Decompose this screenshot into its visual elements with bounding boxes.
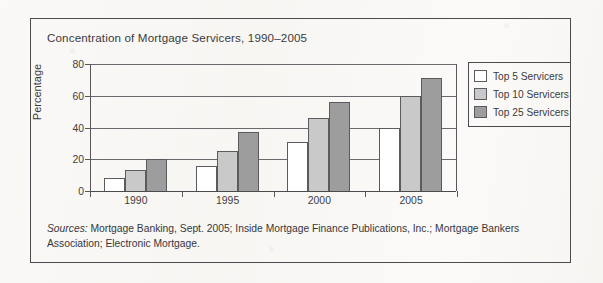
legend-label-0: Top 5 Servicers — [493, 71, 563, 82]
legend-label-2: Top 25 Servicers — [493, 107, 569, 118]
x-tick-mark-4 — [457, 191, 458, 197]
legend-label-1: Top 10 Servicers — [493, 89, 569, 100]
y-tick-mark-80 — [85, 64, 90, 65]
bar-1995-top-10-servicers — [217, 151, 238, 191]
y-tick-mark-40 — [85, 128, 90, 129]
source-text: Mortgage Banking, Sept. 2005; Inside Mor… — [47, 223, 519, 249]
y-axis-title: Percentage — [31, 37, 43, 147]
y-tick-mark-60 — [85, 96, 90, 97]
x-tick-label-1995: 1995 — [198, 195, 258, 206]
source-label: Sources: — [47, 223, 88, 234]
y-tick-label-20: 20 — [50, 154, 84, 165]
bar-2005-top-25-servicers — [421, 78, 442, 191]
bar-2005-top-5-servicers — [379, 128, 400, 192]
plot-area — [90, 64, 457, 191]
bar-2000-top-10-servicers — [308, 118, 329, 191]
legend-swatch-top10 — [474, 88, 487, 100]
bar-1995-top-25-servicers — [238, 132, 259, 191]
x-tick-mark-1 — [182, 191, 183, 197]
bar-2005-top-10-servicers — [400, 96, 421, 191]
y-tick-mark-20 — [85, 159, 90, 160]
legend-item-0[interactable]: Top 5 Servicers — [474, 68, 566, 84]
y-axis-tick-labels: 020406080 — [48, 64, 84, 191]
y-tick-label-60: 60 — [50, 90, 84, 101]
bar-group-1995 — [196, 64, 259, 191]
legend-swatch-top5 — [474, 70, 487, 82]
x-tick-label-2000: 2000 — [289, 195, 349, 206]
bar-1995-top-5-servicers — [196, 166, 217, 191]
y-tick-label-80: 80 — [50, 59, 84, 70]
bar-1990-top-25-servicers — [146, 159, 167, 191]
bar-2000-top-5-servicers — [287, 142, 308, 191]
x-tick-label-2005: 2005 — [381, 195, 441, 206]
bar-1990-top-5-servicers — [104, 178, 125, 191]
bar-group-2000 — [287, 64, 350, 191]
legend-item-1[interactable]: Top 10 Servicers — [474, 86, 566, 102]
bar-2000-top-25-servicers — [329, 102, 350, 191]
bar-group-2005 — [379, 64, 442, 191]
x-tick-mark-3 — [365, 191, 366, 197]
x-tick-mark-2 — [274, 191, 275, 197]
y-tick-label-40: 40 — [50, 122, 84, 133]
x-tick-mark-0 — [90, 191, 91, 197]
y-tick-label-0: 0 — [50, 186, 84, 197]
source-note: Sources: Mortgage Banking, Sept. 2005; I… — [47, 222, 557, 251]
chart-legend: Top 5 ServicersTop 10 ServicersTop 25 Se… — [468, 62, 571, 127]
legend-item-2[interactable]: Top 25 Servicers — [474, 104, 566, 120]
bar-group-1990 — [104, 64, 167, 191]
legend-swatch-top25 — [474, 106, 487, 118]
bar-1990-top-10-servicers — [125, 170, 146, 191]
chart-title: Concentration of Mortgage Servicers, 199… — [47, 31, 307, 44]
x-tick-label-1990: 1990 — [106, 195, 166, 206]
